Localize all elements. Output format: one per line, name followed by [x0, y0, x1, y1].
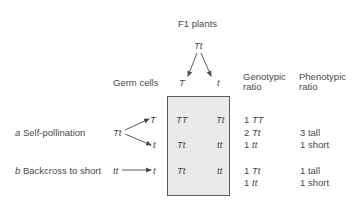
- genotypic-header-line2: ratio: [243, 81, 261, 92]
- grid-cell: Tt: [177, 165, 185, 176]
- germ-cell-dominant: T: [179, 77, 185, 88]
- genotypic-count: 1: [244, 165, 249, 176]
- arrow-a-to-recessive: [125, 134, 151, 145]
- parent-genotype: Tt: [194, 40, 202, 51]
- genotypic-count: 2: [244, 127, 249, 138]
- cross-a-genotype: Tt: [113, 127, 121, 138]
- grid-cell: Tt: [216, 114, 224, 125]
- cross-a-gamete-recessive: t: [153, 139, 156, 150]
- germ-cell-recessive: t: [217, 77, 220, 88]
- cross-a-label: Self-pollination: [23, 127, 85, 138]
- phenotypic-ratio: 1 short: [300, 139, 329, 150]
- grid-cell: Tt: [177, 139, 185, 150]
- genotypic-genotype: tt: [252, 139, 257, 150]
- genotypic-genotype: tt: [252, 177, 257, 188]
- phenotypic-header-line2: ratio: [299, 81, 317, 92]
- phenotypic-ratio: 3 tall: [300, 127, 320, 138]
- grid-cell: tt: [217, 165, 222, 176]
- arrow-to-recessive-germ-cell: [201, 53, 211, 76]
- arrow-a-to-dominant: [125, 119, 149, 130]
- genotypic-genotype: TT: [252, 114, 264, 125]
- cross-a-letter: a: [15, 127, 20, 138]
- genotypic-count: 1: [244, 177, 249, 188]
- grid-cell: TT: [176, 114, 188, 125]
- germ-cells-label: Germ cells: [113, 77, 158, 88]
- cross-b-gamete: t: [153, 165, 156, 176]
- cross-b-genotype: tt: [113, 165, 118, 176]
- genotypic-count: 1: [244, 139, 249, 150]
- phenotypic-ratio: 1 short: [300, 177, 329, 188]
- cross-a-gamete-dominant: T: [150, 114, 156, 125]
- cross-b-label: Backcross to short: [23, 165, 101, 176]
- phenotypic-ratio: 1 tall: [300, 165, 320, 176]
- genotypic-genotype: Tt: [252, 165, 260, 176]
- arrow-to-dominant-germ-cell: [188, 53, 197, 76]
- genotypic-genotype: Tt: [252, 127, 260, 138]
- cross-b-letter: b: [15, 165, 20, 176]
- title: F1 plants: [178, 18, 217, 29]
- grid-cell: tt: [217, 139, 222, 150]
- genotypic-count: 1: [244, 114, 249, 125]
